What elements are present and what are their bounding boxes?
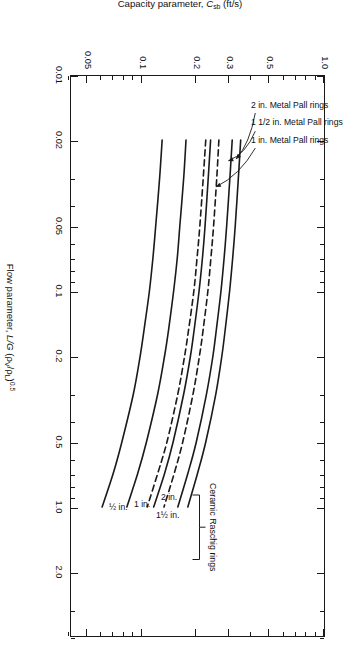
y-tick-label: 1.0 <box>320 0 330 69</box>
x-tick-label: 0.01 <box>54 66 64 84</box>
y-tick-label: 0.05 <box>83 0 93 69</box>
data-curve <box>127 140 186 507</box>
x-tick-label: 0.1 <box>54 285 64 298</box>
y-tick-label: 0.2 <box>193 0 203 69</box>
leader-arrow <box>216 148 256 187</box>
pall-ring-annotation: 1 in. Metal Pall rings <box>251 135 328 145</box>
x-tick-label: 0.2 <box>54 350 64 363</box>
x-axis-title-variable: L/G <box>5 335 16 350</box>
data-curve <box>147 140 206 507</box>
raschig-size-annotation: 2 in. <box>161 492 177 502</box>
x-axis-title: Flow parameter, L/G (ρV/ρL)0.5 <box>4 264 16 392</box>
pall-ring-annotation: 2 in. Metal Pall rings <box>251 100 328 110</box>
x-axis-title-exponent: 0.5 <box>9 382 16 392</box>
y-axis-title-units: (ft/s) <box>220 0 242 9</box>
raschig-size-annotation: ½ in. <box>109 502 128 512</box>
raschig-group-bracket <box>193 495 206 560</box>
data-curve <box>178 140 232 507</box>
y-tick-label: 0.3 <box>225 0 235 69</box>
x-tick-label: 0.02 <box>54 131 64 149</box>
x-tick-label: 1.0 <box>54 501 64 514</box>
figure-canvas: 0.010.020.050.10.20.51.02.00.050.10.20.3… <box>0 0 360 655</box>
chart-figure-root: 0.010.020.050.10.20.51.02.00.050.10.20.3… <box>0 0 360 655</box>
data-curve <box>164 140 219 507</box>
x-tick-label: 0.05 <box>54 217 64 235</box>
x-tick-label: 0.5 <box>54 436 64 449</box>
curve-layer <box>0 0 360 655</box>
x-tick-label: 2.0 <box>54 566 64 579</box>
raschig-group-label: Ceramic Raschig rings <box>208 483 218 571</box>
x-axis-title-prefix: Flow parameter, <box>5 264 16 335</box>
pall-ring-annotation: 1 1/2 in. Metal Pall rings <box>251 117 343 127</box>
data-curve <box>102 140 162 507</box>
y-axis-title: Capacity parameter, Csb (ft/s) <box>70 0 290 10</box>
rotated-figure-wrapper: 0.010.020.050.10.20.51.02.00.050.10.20.3… <box>0 0 360 655</box>
y-axis-title-prefix: Capacity parameter, <box>118 0 207 9</box>
raschig-size-annotation: 1 in. <box>134 499 150 509</box>
raschig-size-annotation: 1½ in. <box>156 510 179 520</box>
y-tick-label: 0.1 <box>138 0 148 69</box>
y-tick-label: 0.5 <box>265 0 275 69</box>
